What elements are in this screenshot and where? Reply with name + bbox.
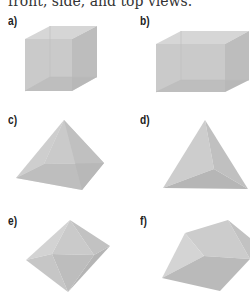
rectangular-prism-figure (153, 28, 251, 98)
cube-figure (20, 24, 100, 98)
triangular-prism-figure (160, 218, 251, 292)
figure-label-b: b) (140, 14, 150, 28)
figure-label-a: a) (8, 14, 17, 28)
figure-label-d: d) (140, 113, 150, 127)
octahedron-figure (24, 218, 114, 292)
figure-label-e: e) (8, 214, 17, 228)
caption-text: front, side, and top views. (8, 0, 192, 9)
figure-label-f: f) (140, 214, 147, 228)
square-pyramid-figure (14, 118, 110, 198)
triangular-pyramid-figure (160, 118, 250, 198)
